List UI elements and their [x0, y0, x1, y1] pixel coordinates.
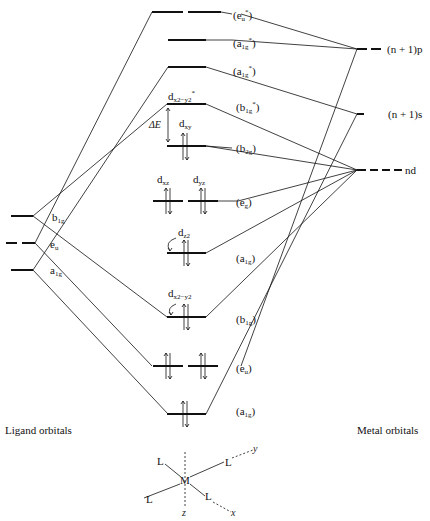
geom-ligand-upper-left: L — [157, 455, 164, 467]
mo-label-eu: (eu) — [236, 362, 252, 378]
geom-ligand-lower-right: L — [205, 490, 212, 502]
ligand-label-b1g: b1g — [52, 211, 65, 227]
axis-x-label: x — [231, 507, 235, 518]
electron-pairs — [164, 108, 207, 427]
mo-label-a1g: (a1g) — [236, 252, 255, 268]
d-label-dx2y2-star: dx2−y2* — [168, 87, 195, 106]
d-label-dyz: dyz — [193, 173, 205, 189]
delta-e-label: ΔE — [149, 119, 161, 131]
geom-metal: M — [180, 474, 190, 486]
ligand-label-eu: eu — [50, 238, 58, 254]
ligand-label-a1g: a1g — [50, 264, 62, 280]
d-label-dz2: dz2 — [178, 226, 190, 242]
mo-diagram — [0, 0, 430, 521]
axis-z-label: z — [182, 507, 186, 518]
mo-label-a1g-star-upper: (a1g*) — [233, 34, 256, 53]
axis-y-label: y — [253, 443, 257, 454]
mo-label-b2g: (b2g) — [236, 142, 256, 158]
geom-ligand-lower-left: L — [146, 493, 153, 505]
correlation-lines — [33, 12, 357, 414]
metal-label-nd: nd — [405, 164, 416, 176]
d-label-dxz: dxz — [157, 173, 169, 189]
mo-label-eg: (eg) — [236, 196, 252, 212]
metal-label-np: (n + 1)p — [387, 43, 423, 55]
geom-ligand-upper-right: L — [225, 456, 232, 468]
mo-label-a1g-bottom: (a1g) — [236, 405, 255, 421]
mo-label-b1g-star: (b1g*) — [236, 98, 259, 117]
metal-label-ns: (n + 1)s — [388, 108, 422, 120]
mo-label-b1g: (b1g) — [236, 313, 256, 329]
d-label-dxy: dxy — [179, 117, 192, 133]
mo-label-eu-star: (eu*) — [233, 6, 252, 25]
mo-label-a1g-star-lower: (a1g*) — [233, 62, 256, 81]
caption-ligand-orbitals: Ligand orbitals — [5, 424, 72, 436]
d-label-dx2y2: dx2−y2 — [168, 287, 191, 303]
caption-metal-orbitals: Metal orbitals — [357, 424, 418, 436]
